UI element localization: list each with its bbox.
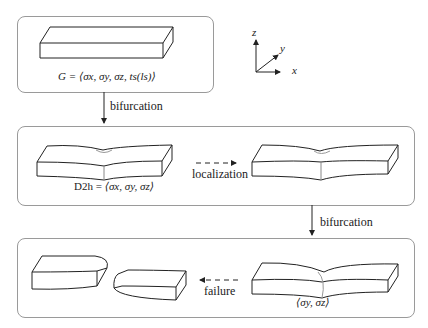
- axis-label-x: x: [292, 64, 297, 76]
- formula-prefix: G =: [58, 70, 79, 82]
- label-localization: localization: [192, 167, 248, 182]
- shear-neck-bar-icon: [252, 263, 398, 298]
- axis-label-z: z: [252, 26, 256, 38]
- formula-body: ⟨σx, σy, σz⟩: [105, 180, 154, 192]
- formula-initial: G = ⟨σx, σy, σz, ts(ls)⟩: [58, 70, 156, 83]
- intact-bar-icon: [40, 27, 173, 58]
- coordinate-axes-icon: [256, 40, 280, 72]
- diffuse-neck-bar-icon: [37, 145, 172, 180]
- label-bifurcation-2: bifurcation: [320, 215, 373, 230]
- fractured-piece-left-icon: [32, 256, 108, 289]
- fractured-piece-right-icon: [114, 270, 186, 300]
- formula-prefix: D2h =: [74, 180, 105, 192]
- axis-label-y: y: [280, 42, 285, 54]
- localized-neck-bar-icon: [252, 145, 398, 180]
- formula-shear: ⟨σy, σz⟩: [296, 296, 330, 309]
- label-failure: failure: [204, 284, 235, 299]
- diagram-graphics: [0, 0, 428, 328]
- formula-localized: D2h = ⟨σx, σy, σz⟩: [74, 180, 154, 193]
- label-bifurcation-1: bifurcation: [110, 99, 163, 114]
- formula-body: ⟨σx, σy, σz, ts(ls)⟩: [79, 70, 156, 82]
